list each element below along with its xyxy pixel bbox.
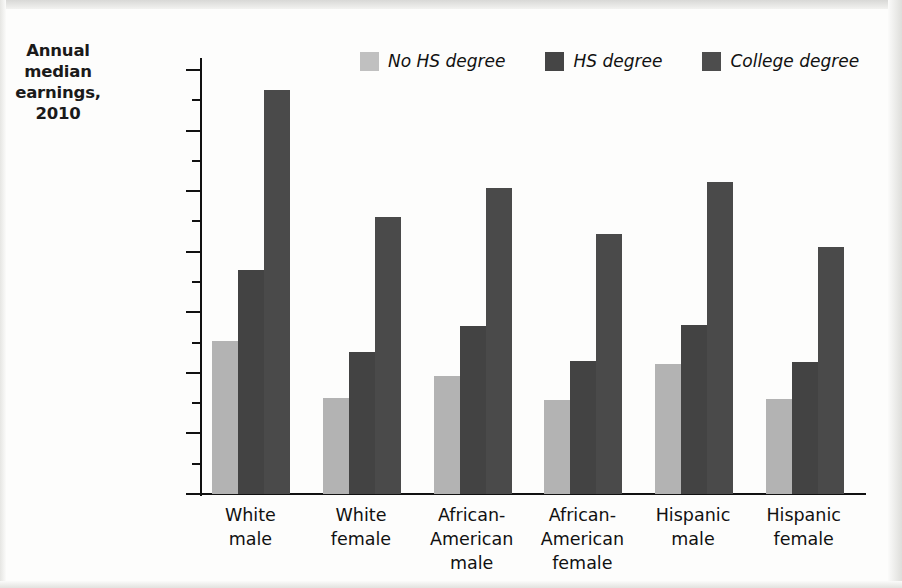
bar — [486, 188, 512, 494]
bar — [375, 217, 401, 494]
bar-chart: Annual median earnings, 2010 $70,00060,0… — [0, 0, 902, 588]
y-axis-labels: $70,00060,00050,00040,00030,00020,00010,… — [0, 0, 182, 588]
x-axis-category-label: Hispanicmale — [633, 503, 754, 551]
y-tick-major — [186, 69, 201, 71]
bar — [570, 361, 596, 494]
legend-swatch — [360, 52, 379, 71]
y-tick-major — [186, 432, 201, 434]
bar — [766, 399, 792, 494]
bar — [544, 400, 570, 494]
y-tick-major — [186, 251, 201, 253]
y-axis-line — [200, 58, 202, 496]
y-tick-minor — [192, 220, 201, 222]
legend-label: No HS degree — [388, 51, 505, 71]
y-tick-major — [186, 493, 201, 495]
legend-label: HS degree — [573, 51, 662, 71]
y-tick-minor — [192, 463, 201, 465]
bar — [460, 326, 486, 494]
x-axis-category-label: African-Americanfemale — [522, 503, 643, 575]
legend-item: College degree — [702, 51, 859, 71]
legend: No HS degreeHS degreeCollege degree — [360, 49, 899, 73]
bar — [238, 270, 264, 494]
bar — [818, 247, 844, 494]
x-axis-category-line: American — [522, 527, 643, 551]
x-axis-category-line: male — [411, 551, 532, 575]
bar — [349, 352, 375, 494]
legend-swatch — [545, 52, 564, 71]
legend-item: HS degree — [545, 51, 662, 71]
x-axis-category-label: Whitemale — [190, 503, 311, 551]
legend-swatch — [702, 52, 721, 71]
x-axis-category-line: White — [301, 503, 422, 527]
x-axis-category-line: White — [190, 503, 311, 527]
bar — [707, 182, 733, 494]
bar — [792, 362, 818, 494]
x-axis-category-line: male — [633, 527, 754, 551]
y-tick-major — [186, 190, 201, 192]
x-axis-category-line: American — [411, 527, 532, 551]
x-axis-category-line: male — [190, 527, 311, 551]
x-axis-category-line: Hispanic — [633, 503, 754, 527]
x-axis-category-line: African- — [411, 503, 532, 527]
y-tick-minor — [192, 342, 201, 344]
x-axis-category-line: female — [743, 527, 864, 551]
x-axis-category-line: African- — [522, 503, 643, 527]
y-tick-major — [186, 372, 201, 374]
x-axis-category-label: African-Americanmale — [411, 503, 532, 575]
bar — [596, 234, 622, 494]
x-axis-category-line: female — [522, 551, 643, 575]
bar — [323, 398, 349, 494]
bar — [212, 341, 238, 494]
x-axis-category-label: Whitefemale — [301, 503, 422, 551]
y-tick-minor — [192, 99, 201, 101]
x-axis-category-line: Hispanic — [743, 503, 864, 527]
bar — [681, 325, 707, 494]
bar — [434, 376, 460, 494]
legend-item: No HS degree — [360, 51, 505, 71]
y-tick-major — [186, 130, 201, 132]
bar — [655, 364, 681, 494]
y-tick-minor — [192, 160, 201, 162]
y-tick-minor — [192, 281, 201, 283]
y-tick-major — [186, 311, 201, 313]
bar — [264, 90, 290, 494]
x-axis-category-label: Hispanicfemale — [743, 503, 864, 551]
legend-label: College degree — [730, 51, 859, 71]
y-tick-minor — [192, 402, 201, 404]
x-axis-category-line: female — [301, 527, 422, 551]
